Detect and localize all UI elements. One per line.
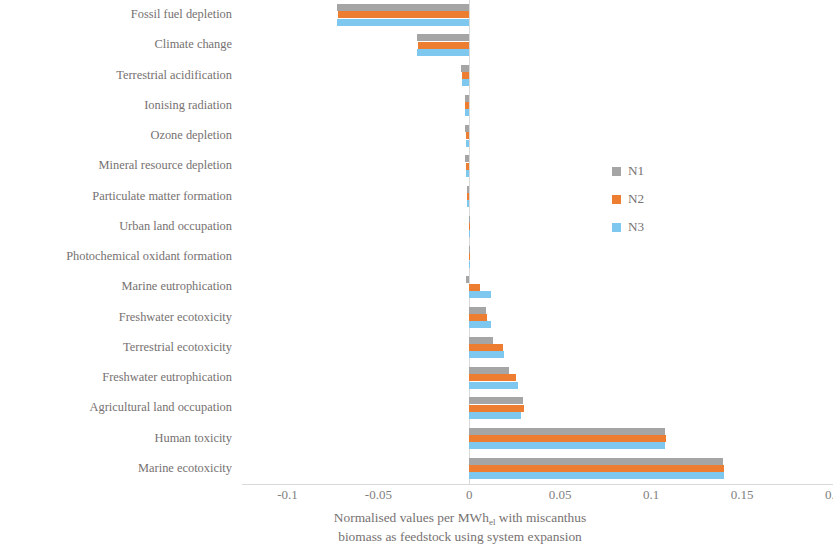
bar-n2-1 [418,42,469,49]
bar-n3-14 [469,442,664,449]
bar-group [242,125,833,147]
bar-n2-8 [469,253,470,260]
bar-n2-3 [465,102,469,109]
bar-n1-1 [417,34,469,41]
bar-n2-11 [469,344,503,351]
category-label: Photochemical oxidant formation [0,250,232,262]
bar-n1-5 [465,155,469,162]
legend-label: N2 [628,192,644,205]
bar-n3-5 [466,170,470,177]
value-axis-ticks: -0.1-0.0500.050.10.150.2 [242,485,833,507]
bar-n1-0 [337,4,469,11]
x-tick-label: 0 [466,487,473,503]
bar-n1-9 [466,276,469,283]
category-axis-labels: Fossil fuel depletionClimate changeTerre… [0,0,240,484]
bar-n3-12 [469,382,518,389]
bar-n2-12 [469,374,515,381]
category-label: Ionising radiation [0,99,232,111]
bar-n3-3 [465,109,470,116]
bar-n2-2 [462,72,470,79]
bar-n3-10 [469,321,490,328]
bar-n3-15 [469,472,723,479]
legend-swatch-icon [612,195,621,204]
bar-n1-4 [465,125,469,132]
bar-n3-8 [469,261,470,268]
x-axis-title-line1: Normalised values per MWh [334,510,489,525]
bar-group [242,337,833,359]
legend-item-n1[interactable]: N1 [612,157,722,185]
bar-n1-7 [469,216,470,223]
category-label: Urban land occupation [0,220,232,232]
bar-group [242,155,833,177]
x-tick-label: 0.2 [825,487,833,503]
bar-n1-11 [469,337,492,344]
bar-group [242,65,833,87]
bar-n1-13 [469,397,523,404]
legend-swatch-icon [612,223,621,232]
bar-n1-12 [469,367,509,374]
bar-n1-14 [469,428,664,435]
category-label: Particulate matter formation [0,190,232,202]
bar-group [242,34,833,56]
legend-swatch-icon [612,167,621,176]
category-label: Freshwater eutrophication [0,371,232,383]
bar-group [242,458,833,480]
bar-chart: Fossil fuel depletionClimate changeTerre… [0,0,833,557]
bar-n3-2 [462,79,469,86]
category-label: Marine ecotoxicity [0,462,232,474]
bar-group [242,276,833,298]
bar-n2-6 [467,193,469,200]
bar-n1-15 [469,458,723,465]
x-tick-label: -0.05 [365,487,392,503]
category-label: Terrestrial ecotoxicity [0,341,232,353]
plot-area [242,0,833,484]
bar-n1-3 [465,95,470,102]
bar-group [242,307,833,329]
bar-n3-7 [469,230,470,237]
bar-n1-6 [467,186,469,193]
x-axis-title-line2: biomass as feedstock using system expans… [338,529,582,544]
bar-n2-10 [469,314,487,321]
bar-n3-11 [469,351,504,358]
bar-n3-6 [467,200,469,207]
category-label: Climate change [0,38,232,50]
x-axis-title: Normalised values per MWhel with miscant… [180,508,740,547]
bar-n3-0 [337,19,470,26]
bar-n1-8 [469,246,470,253]
category-label: Agricultural land occupation [0,401,232,413]
bar-n2-15 [469,465,724,472]
category-label: Mineral resource depletion [0,159,232,171]
bar-n2-4 [466,132,470,139]
x-axis-title-subscript: el [489,517,496,527]
legend: N1N2N3 [612,157,722,241]
bar-n3-4 [466,140,470,147]
category-label: Human toxicity [0,432,232,444]
bar-n3-1 [417,49,470,56]
category-label: Fossil fuel depletion [0,8,232,20]
legend-item-n3[interactable]: N3 [612,213,722,241]
bar-n3-13 [469,412,521,419]
bar-n1-2 [461,65,469,72]
bar-n3-9 [469,291,490,298]
legend-item-n2[interactable]: N2 [612,185,722,213]
bar-group [242,95,833,117]
x-tick-label: 0.15 [731,487,754,503]
category-label: Marine eutrophication [0,280,232,292]
bar-group [242,397,833,419]
bar-n2-7 [469,223,470,230]
bar-group [242,4,833,26]
category-label: Terrestrial acidification [0,69,232,81]
x-tick-label: -0.1 [277,487,298,503]
bar-group [242,246,833,268]
bar-n2-13 [469,405,524,412]
bar-n1-10 [469,307,486,314]
legend-label: N3 [628,220,644,233]
legend-label: N1 [628,164,644,177]
bar-n2-5 [466,163,470,170]
bar-n2-14 [469,435,665,442]
bar-group [242,428,833,450]
x-tick-label: 0.1 [643,487,659,503]
x-tick-label: 0.05 [549,487,572,503]
bar-n2-9 [469,284,480,291]
bar-group [242,186,833,208]
